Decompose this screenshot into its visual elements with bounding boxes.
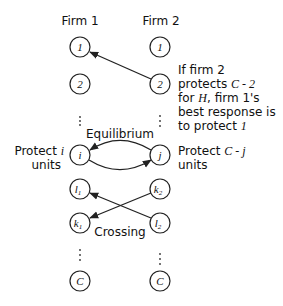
node-f1-C: C — [70, 271, 90, 291]
column-header-firm2: Firm 2 — [142, 14, 179, 28]
best-response-diagram: Firm 1 Firm 2 12il1k1C 12jk2l2C Equilibr… — [0, 0, 283, 306]
node-f2-k2: k2 — [150, 179, 170, 199]
protect-i-label: Protect i — [14, 144, 64, 158]
best-response-annotation: If firm 2protects C - 2for H, firm 1'sbe… — [178, 63, 276, 133]
ellipsis-firm1-lower — [79, 249, 81, 261]
node-f2-l2: l2 — [150, 213, 170, 233]
ellipsis-firm2-lower — [159, 253, 161, 265]
node-f1-i: i — [70, 145, 90, 165]
equilibrium-label: Equilibrium — [86, 127, 154, 141]
protect-cj-units: units — [178, 158, 208, 172]
node-f1-l1: l1 — [70, 179, 90, 199]
crossing-label: Crossing — [94, 225, 145, 239]
node-f1-k1: k1 — [70, 213, 90, 233]
node-f2-C: C — [150, 271, 170, 291]
node-label: C — [156, 275, 164, 287]
node-label: 1 — [77, 41, 83, 53]
firm1-nodes: 12il1k1C — [70, 37, 90, 291]
protect-i-units: units — [31, 158, 61, 172]
edge-equilibrium-lower — [89, 160, 151, 170]
node-f2-j: j — [150, 145, 170, 165]
node-label: 1 — [157, 41, 163, 53]
node-f2-1: 1 — [150, 37, 170, 57]
edge-2-to-1 — [90, 52, 151, 79]
node-label: i — [78, 149, 81, 161]
node-f1-1: 1 — [70, 37, 90, 57]
firm2-nodes: 12jk2l2C — [150, 37, 170, 291]
node-f2-2: 2 — [150, 74, 170, 94]
node-f1-2: 2 — [70, 74, 90, 94]
node-label: C — [76, 275, 84, 287]
edge-equilibrium-upper — [90, 140, 151, 150]
node-label: 2 — [157, 78, 163, 90]
ellipsis-firm2-upper — [159, 115, 161, 127]
node-label: 2 — [77, 78, 83, 90]
ellipsis-firm1-upper — [79, 116, 81, 126]
column-header-firm1: Firm 1 — [61, 14, 98, 28]
protect-cj-label: Protect C - j — [178, 144, 246, 158]
